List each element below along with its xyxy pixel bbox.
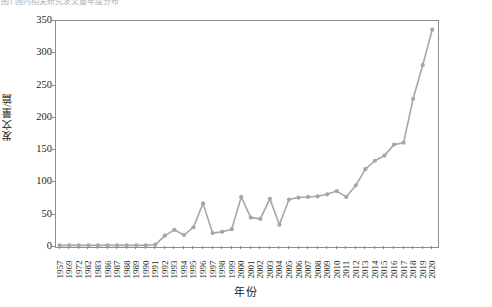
y-tick-label-250: 250: [4, 80, 52, 90]
x-tick-mark-2019: [422, 246, 423, 249]
x-tick-mark-2000: [240, 246, 241, 249]
x-tick-label-2002: 2002: [256, 256, 265, 284]
x-tick-mark-2012: [355, 246, 356, 249]
y-tick-label-50: 50: [4, 209, 52, 219]
x-tick-mark-1993: [173, 246, 174, 249]
y-axis-title: 发文量/篇: [2, 92, 16, 141]
x-tick-mark-1989: [135, 246, 136, 249]
x-tick-mark-2013: [364, 246, 365, 249]
y-tick-label-350: 350: [4, 15, 52, 25]
y-tick-label-100: 100: [4, 176, 52, 186]
x-tick-mark-2014: [374, 246, 375, 249]
x-tick-mark-1999: [231, 246, 232, 249]
x-tick-mark-1969: [68, 246, 69, 249]
x-tick-mark-2004: [278, 246, 279, 249]
x-tick-mark-1995: [192, 246, 193, 249]
x-tick-mark-1997: [212, 246, 213, 249]
x-tick-mark-2008: [317, 246, 318, 249]
x-axis-title: 年份: [0, 283, 492, 299]
x-tick-mark-1990: [145, 246, 146, 249]
x-tick-mark-2018: [412, 246, 413, 249]
x-tick-label-2009: 2009: [323, 256, 332, 284]
x-tick-label-2005: 2005: [284, 256, 293, 284]
x-tick-mark-1957: [59, 246, 60, 249]
x-tick-mark-1972: [78, 246, 79, 249]
x-tick-mark-2005: [288, 246, 289, 249]
plot-area: [55, 20, 439, 248]
x-tick-label-1996: 1996: [199, 256, 208, 284]
x-tick-mark-1991: [154, 246, 155, 249]
x-tick-mark-2010: [336, 246, 337, 249]
x-tick-mark-1992: [164, 246, 165, 249]
x-tick-label-2011: 2011: [342, 256, 351, 284]
x-tick-mark-1996: [202, 246, 203, 249]
x-tick-mark-1982: [87, 246, 88, 249]
x-tick-label-2020: 2020: [428, 256, 437, 284]
x-tick-mark-2003: [269, 246, 270, 249]
y-tick-label-150: 150: [4, 144, 52, 154]
y-tick-mark-350: [51, 20, 55, 21]
x-tick-label-1983: 1983: [93, 256, 102, 284]
x-tick-mark-2002: [259, 246, 260, 249]
y-tick-mark-150: [51, 149, 55, 150]
figure-line-chart: 图1 国内相关研究发文量年度分布 050100150200250300350 发…: [0, 0, 492, 307]
y-tick-mark-100: [51, 181, 55, 182]
y-tick-mark-50: [51, 214, 55, 215]
y-tick-label-300: 300: [4, 47, 52, 57]
x-tick-label-2018: 2018: [409, 256, 418, 284]
x-tick-mark-2007: [307, 246, 308, 249]
x-tick-mark-2017: [403, 246, 404, 249]
x-tick-mark-1988: [126, 246, 127, 249]
x-tick-mark-1986: [107, 246, 108, 249]
x-tick-mark-2015: [383, 246, 384, 249]
x-tick-label-2016: 2016: [390, 256, 399, 284]
figure-caption-cropped: 图1 国内相关研究发文量年度分布: [0, 0, 492, 7]
x-tick-mark-1998: [221, 246, 222, 249]
y-tick-mark-200: [51, 117, 55, 118]
x-tick-mark-2009: [326, 246, 327, 249]
x-tick-mark-1983: [97, 246, 98, 249]
x-tick-mark-1994: [183, 246, 184, 249]
x-tick-mark-2020: [431, 246, 432, 249]
x-tick-label-1998: 1998: [218, 256, 227, 284]
y-tick-mark-300: [51, 52, 55, 53]
figure-caption-text: 图1 国内相关研究发文量年度分布: [1, 0, 492, 6]
y-tick-mark-250: [51, 85, 55, 86]
x-tick-label-1987: 1987: [113, 256, 122, 284]
x-tick-label-1989: 1989: [132, 256, 141, 284]
x-tick-mark-2001: [250, 246, 251, 249]
x-tick-mark-1987: [116, 246, 117, 249]
x-tick-label-1969: 1969: [65, 256, 74, 284]
x-tick-label-2007: 2007: [304, 256, 313, 284]
x-tick-mark-2006: [298, 246, 299, 249]
x-tick-mark-2016: [393, 246, 394, 249]
x-tick-label-1991: 1991: [151, 256, 160, 284]
x-tick-mark-2011: [345, 246, 346, 249]
x-tick-label-2000: 2000: [237, 256, 246, 284]
